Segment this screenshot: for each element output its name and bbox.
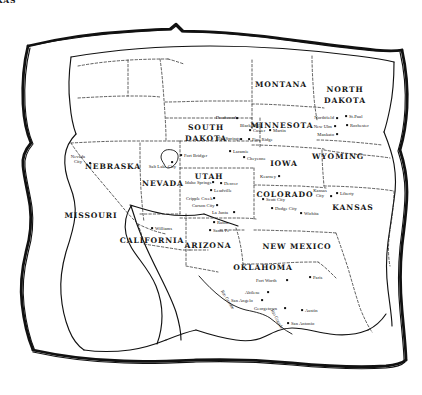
city-label: Laramie	[233, 149, 249, 154]
state-label-kansas: KANSAS	[332, 203, 373, 212]
city-dot	[301, 309, 303, 311]
city-label: Cripple Creek	[186, 196, 213, 201]
city-label: Abilene	[245, 290, 260, 295]
city-dot	[236, 117, 238, 119]
city-label: Idaho Springs	[185, 180, 211, 185]
city-dot	[209, 229, 211, 231]
state-label-north-dakota: NORTHDAKOTA	[324, 84, 366, 106]
state-label-montana: MONTANA	[255, 80, 307, 89]
city-label: Salt Lake City	[149, 164, 176, 169]
state-label-iowa: IOWA	[270, 159, 298, 168]
city-label: Deadwood	[216, 115, 236, 120]
city-dot	[330, 195, 332, 197]
city-label: Northfield	[314, 115, 334, 120]
state-label-new-mexico: NEW MEXICO	[262, 242, 331, 251]
state-label-nebraska: NEBRASKA	[85, 162, 141, 171]
city-label: Mankato	[317, 132, 334, 137]
city-dot	[271, 207, 273, 209]
city-label: Carson City	[192, 203, 215, 208]
city-label: Raton	[217, 220, 228, 225]
city-label: St.Paul	[349, 114, 363, 119]
city-dot	[151, 227, 153, 229]
city-dot	[240, 138, 242, 140]
city-dot	[336, 192, 338, 194]
city-dot	[210, 189, 212, 191]
city-dot	[213, 221, 215, 223]
city-dot	[180, 154, 182, 156]
city-label: Wichita	[304, 211, 319, 216]
city-dot	[220, 182, 222, 184]
city-label: San Angelo	[231, 298, 253, 303]
city-label: Hot Springs	[217, 136, 240, 141]
city-dot	[267, 291, 269, 293]
city-dot	[216, 204, 218, 206]
state-label-arizona: ARIZONA	[184, 241, 231, 250]
city-dot	[243, 156, 245, 158]
city-label: San Antonio	[291, 321, 314, 326]
city-dot	[229, 150, 231, 152]
city-label: Paris	[313, 275, 322, 280]
city-dot	[249, 129, 251, 131]
city-dot	[233, 211, 235, 213]
city-dot	[334, 125, 336, 127]
state-label-nevada: NEVADA	[142, 179, 184, 188]
city-dot	[212, 181, 214, 183]
city-label: Scott City	[266, 197, 285, 202]
city-dot	[309, 276, 311, 278]
city-dot	[300, 212, 302, 214]
state-label-missouri: MISSOURI	[64, 211, 117, 220]
city-dot	[262, 198, 264, 200]
city-label: Pine Ridge	[252, 137, 273, 142]
state-label-south-dakota: SOUTHDAKOTA	[185, 122, 227, 144]
city-label: La Junta	[212, 210, 228, 215]
city-label: New Ulm	[314, 124, 332, 129]
city-label: Austin	[305, 308, 318, 313]
city-label: Williams	[155, 226, 172, 231]
city-label: Kearney	[260, 174, 276, 179]
city-label: Fort Bridger	[184, 153, 207, 158]
city-dot	[346, 124, 348, 126]
city-dot	[286, 279, 288, 281]
map-canvas: MONTANA NORTHDAKOTA MINNESOTA SOUTHDAKOT…	[0, 0, 422, 395]
city-dot	[284, 307, 286, 309]
city-label: Rochester	[350, 123, 369, 128]
city-label: Liberty	[340, 191, 354, 196]
city-dot	[261, 299, 263, 301]
city-dot	[336, 133, 338, 135]
state-label-texas: TEXAS	[0, 0, 16, 5]
city-label: Fort Worth	[256, 278, 277, 283]
state-label-oklahoma: OKLAHOMA	[233, 263, 293, 272]
city-label: Leadville	[214, 188, 232, 193]
city-dot	[278, 175, 280, 177]
city-label: Cheyenne	[247, 156, 266, 161]
city-label: Custer	[253, 128, 265, 133]
city-dot	[269, 129, 271, 131]
city-label: Denver	[224, 181, 238, 186]
city-label: KansasCity	[313, 188, 327, 198]
city-dot	[89, 162, 91, 164]
city-dot	[345, 115, 347, 117]
city-label: NevadaCity	[71, 154, 85, 164]
city-dot	[287, 322, 289, 324]
city-dot	[248, 138, 250, 140]
state-label-wyoming: WYOMING	[312, 152, 364, 161]
city-dot	[213, 197, 215, 199]
city-dot	[336, 117, 338, 119]
city-label: Martin	[273, 128, 286, 133]
city-label: Dodge City	[275, 206, 297, 211]
state-label-california: CALIFORNIA	[120, 236, 185, 245]
city-label: Santa Fe	[213, 228, 229, 233]
